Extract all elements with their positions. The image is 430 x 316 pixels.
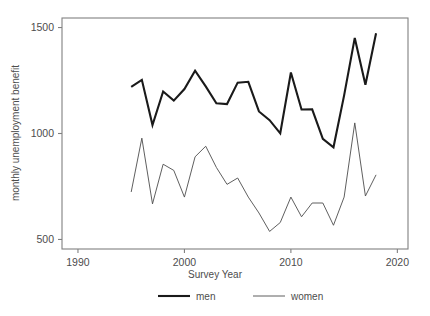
y-tick-label: 500 (36, 233, 54, 245)
x-tick-label: 2020 (386, 256, 410, 268)
x-axis-title: Survey Year (188, 269, 243, 280)
x-tick-label: 2000 (173, 256, 197, 268)
legend-label-women: women (290, 291, 323, 302)
line-chart: 50010001500 1990200020102020 Survey Year… (0, 0, 430, 316)
chart-figure: 50010001500 1990200020102020 Survey Year… (0, 0, 430, 316)
x-tick-label: 2010 (279, 256, 303, 268)
legend-label-men: men (196, 291, 215, 302)
y-axis-title: monthly unemployment benefit (10, 65, 21, 201)
y-tick-label: 1000 (31, 127, 55, 139)
x-tick-label: 1990 (66, 256, 90, 268)
y-tick-label: 1500 (31, 21, 55, 33)
